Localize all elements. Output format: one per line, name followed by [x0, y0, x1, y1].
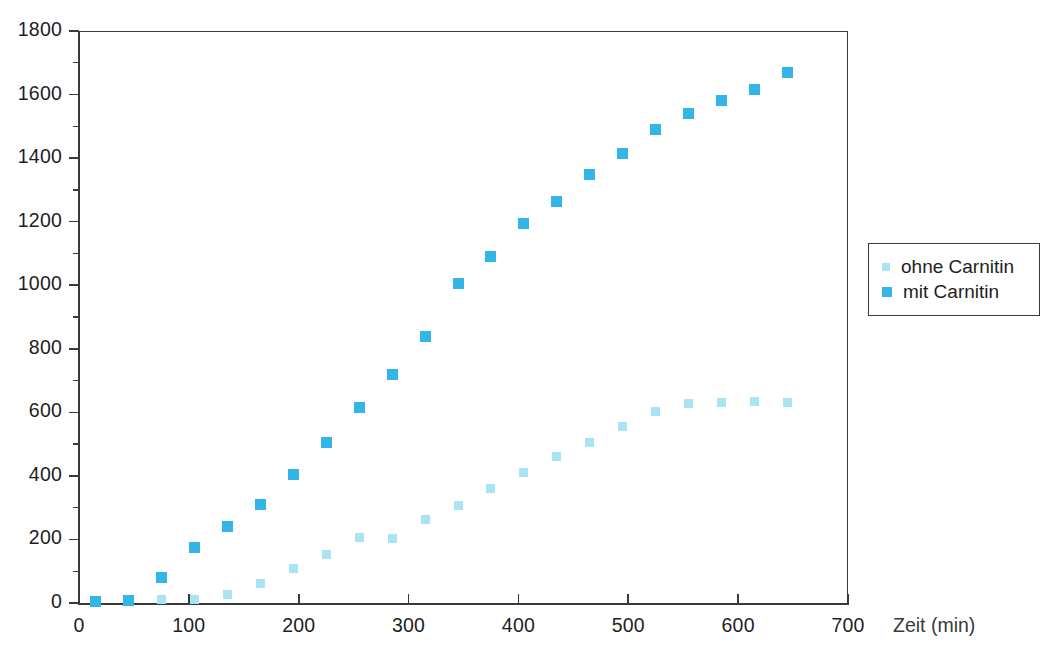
data-point-ohne-carnitin: [585, 438, 594, 447]
data-point-mit-carnitin: [387, 369, 398, 380]
data-point-mit-carnitin: [551, 196, 562, 207]
data-point-ohne-carnitin: [618, 422, 627, 431]
data-point-mit-carnitin: [782, 67, 793, 78]
data-point-ohne-carnitin: [157, 595, 166, 604]
data-point-ohne-carnitin: [717, 398, 726, 407]
x-axis-tick-label: 0: [44, 614, 114, 637]
data-point-ohne-carnitin: [256, 579, 265, 588]
data-point-ohne-carnitin: [486, 484, 495, 493]
y-axis-tick-label: 800: [0, 336, 62, 359]
chart-title: [170, 0, 790, 2]
y-axis-tick-label: 1200: [0, 209, 62, 232]
data-point-mit-carnitin: [420, 331, 431, 342]
data-point-ohne-carnitin: [289, 564, 298, 573]
x-axis-tick-label: 400: [483, 614, 553, 637]
data-point-mit-carnitin: [90, 596, 101, 607]
data-point-mit-carnitin: [354, 402, 365, 413]
data-point-ohne-carnitin: [388, 534, 397, 543]
data-point-mit-carnitin: [222, 521, 233, 532]
data-point-ohne-carnitin: [454, 501, 463, 510]
data-point-mit-carnitin: [156, 572, 167, 583]
data-point-ohne-carnitin: [355, 533, 364, 542]
y-axis-tick-label: 1800: [0, 18, 62, 41]
data-point-ohne-carnitin: [421, 515, 430, 524]
data-point-ohne-carnitin: [223, 590, 232, 599]
x-axis-tick-label: 600: [703, 614, 773, 637]
data-point-ohne-carnitin: [552, 452, 561, 461]
data-point-mit-carnitin: [617, 148, 628, 159]
y-axis-tick-label: 1400: [0, 145, 62, 168]
data-point-mit-carnitin: [255, 499, 266, 510]
data-point-mit-carnitin: [288, 469, 299, 480]
x-axis-tick-label: 700: [813, 614, 883, 637]
data-point-ohne-carnitin: [190, 595, 199, 604]
data-point-ohne-carnitin: [750, 397, 759, 406]
y-axis-tick-label: 0: [0, 590, 62, 613]
data-point-ohne-carnitin: [684, 399, 693, 408]
chart-legend: ohne Carnitin mit Carnitin: [868, 243, 1040, 316]
data-point-mit-carnitin: [749, 84, 760, 95]
data-point-mit-carnitin: [683, 108, 694, 119]
legend-label-ohne-carnitin: ohne Carnitin: [901, 256, 1014, 278]
legend-item-ohne-carnitin[interactable]: ohne Carnitin: [869, 254, 1039, 279]
y-axis-tick-label: 200: [0, 526, 62, 549]
legend-marker-ohne-carnitin-icon: [882, 263, 890, 271]
y-axis-tick-label: 400: [0, 463, 62, 486]
data-point-ohne-carnitin: [519, 468, 528, 477]
x-axis-tick-label: 500: [593, 614, 663, 637]
data-point-mit-carnitin: [485, 251, 496, 262]
data-point-ohne-carnitin: [783, 398, 792, 407]
plot-area: [79, 31, 848, 604]
data-point-mit-carnitin: [453, 278, 464, 289]
y-axis-tick-label: 1000: [0, 272, 62, 295]
legend-item-mit-carnitin[interactable]: mit Carnitin: [869, 279, 1039, 304]
data-point-mit-carnitin: [584, 169, 595, 180]
legend-label-mit-carnitin: mit Carnitin: [903, 281, 999, 303]
data-point-ohne-carnitin: [322, 550, 331, 559]
data-point-mit-carnitin: [518, 218, 529, 229]
data-point-mit-carnitin: [650, 124, 661, 135]
legend-marker-mit-carnitin-icon: [882, 287, 892, 297]
data-point-ohne-carnitin: [651, 407, 660, 416]
data-point-mit-carnitin: [716, 95, 727, 106]
x-axis-title: Zeit (min): [893, 614, 975, 637]
data-point-mit-carnitin: [321, 437, 332, 448]
chart-figure: 020040060080010001200140016001800 010020…: [0, 0, 1049, 660]
data-point-mit-carnitin: [189, 542, 200, 553]
y-axis-tick-label: 600: [0, 399, 62, 422]
y-axis-tick-label: 1600: [0, 82, 62, 105]
x-axis-tick-label: 100: [154, 614, 224, 637]
data-point-mit-carnitin: [123, 595, 134, 606]
x-axis-tick-label: 300: [374, 614, 444, 637]
x-axis-tick-label: 200: [264, 614, 334, 637]
